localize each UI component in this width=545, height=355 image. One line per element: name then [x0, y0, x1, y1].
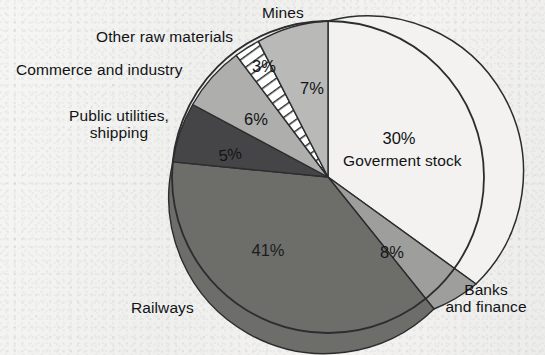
- slice-value-commerce: 6%: [244, 110, 268, 128]
- callout-label-public-utilities: Public utilities, shipping: [44, 107, 194, 142]
- callout-public-utilities-line1: Public utilities,: [44, 107, 194, 124]
- callout-label-banks-and-finance: Banks and finance: [430, 281, 542, 316]
- slice-value-goverment-stock: 30%: [382, 129, 415, 147]
- slice-value-public-utilities: 5%: [218, 145, 243, 165]
- pie-chart-figure: 30% 8% 41% 5% 6% 3% 7% Mines Other raw m…: [0, 0, 545, 355]
- callout-label-goverment-stock: Goverment stock: [343, 152, 462, 169]
- callout-label-other-raw-materials: Other raw materials: [96, 28, 233, 45]
- slice-value-railways: 41%: [251, 241, 284, 259]
- callout-public-utilities-line2: shipping: [44, 124, 194, 141]
- slice-value-mines: 7%: [300, 79, 324, 97]
- callout-banks-line1: Banks: [430, 281, 542, 298]
- slice-value-other-raw: 3%: [252, 57, 276, 75]
- callout-label-commerce-and-industry: Commerce and industry: [16, 61, 183, 78]
- slice-value-banks: 8%: [380, 243, 404, 261]
- callout-label-mines: Mines: [228, 4, 338, 21]
- callout-label-railways: Railways: [131, 299, 194, 316]
- callout-banks-line2: and finance: [430, 298, 542, 315]
